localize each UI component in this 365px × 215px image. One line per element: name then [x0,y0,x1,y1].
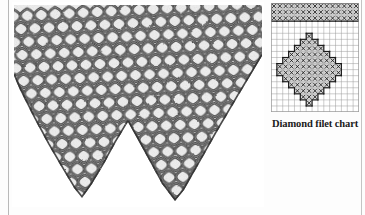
page-rule-right [361,0,362,215]
chart-caption: Diamond filet chart [271,118,361,129]
page-rule-left [8,0,9,215]
diamond-filet-chart [271,3,359,112]
diamond-filet-chart-block: Diamond filet chart [271,3,361,129]
page-canvas: Diamond filet chart [0,0,365,215]
crochet-lace-edging-photo [12,2,264,207]
